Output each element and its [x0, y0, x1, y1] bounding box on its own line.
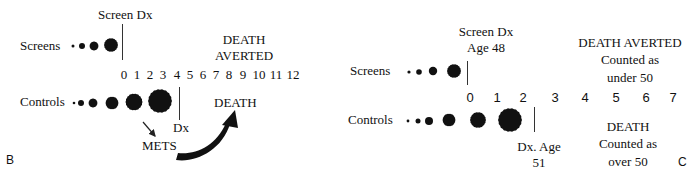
arrow-to-mets	[143, 122, 155, 136]
screens-tumor-sequence-c	[407, 64, 461, 78]
controls-tumor-sequence-c	[407, 108, 522, 132]
screens-tumor-sequence-b	[72, 38, 119, 52]
controls-tumor-sequence-b	[73, 89, 172, 113]
graphics-layer	[0, 0, 695, 171]
curved-arrow-to-death	[176, 110, 238, 160]
